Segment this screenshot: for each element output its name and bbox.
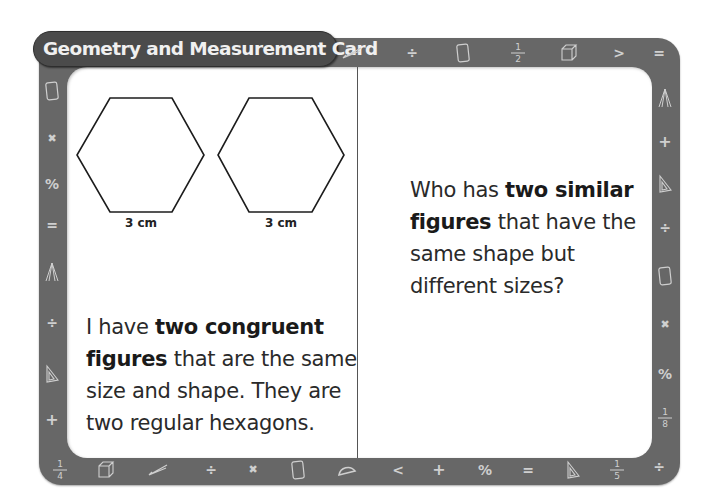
text-run: I have [86,315,155,339]
text-run: that have the [491,210,635,234]
text-run: different sizes? [410,274,564,298]
hexagon-figure-1 [77,98,204,212]
text-line: figures that are the same [86,343,357,375]
text-line: figures that have the [410,206,636,238]
text-line: same shape but [410,238,636,270]
text-line: I have two congruent [86,311,357,343]
text-line: size and shape. They are [86,375,357,407]
text-run: two regular hexagons. [86,411,315,435]
text-line: Who has two similar [410,174,636,206]
text-line: two regular hexagons. [86,407,357,439]
card-statement: I have two congruentfigures that are the… [86,311,357,439]
card-question: Who has two similarfigures that have the… [410,174,636,302]
bold-term: figures [410,210,491,234]
bold-term: figures [86,347,167,371]
bold-term: two similar [505,178,633,202]
text-run: size and shape. They are [86,379,341,403]
text-line: different sizes? [410,270,636,302]
text-run: that are the same [167,347,357,371]
hexagon-1-side-label: 3 cm [125,216,157,230]
text-run: Who has [410,178,505,202]
hexagon-figure-2 [218,98,344,212]
hexagon-2-side-label: 3 cm [265,216,297,230]
text-run: same shape but [410,242,575,266]
bold-term: two congruent [155,315,324,339]
